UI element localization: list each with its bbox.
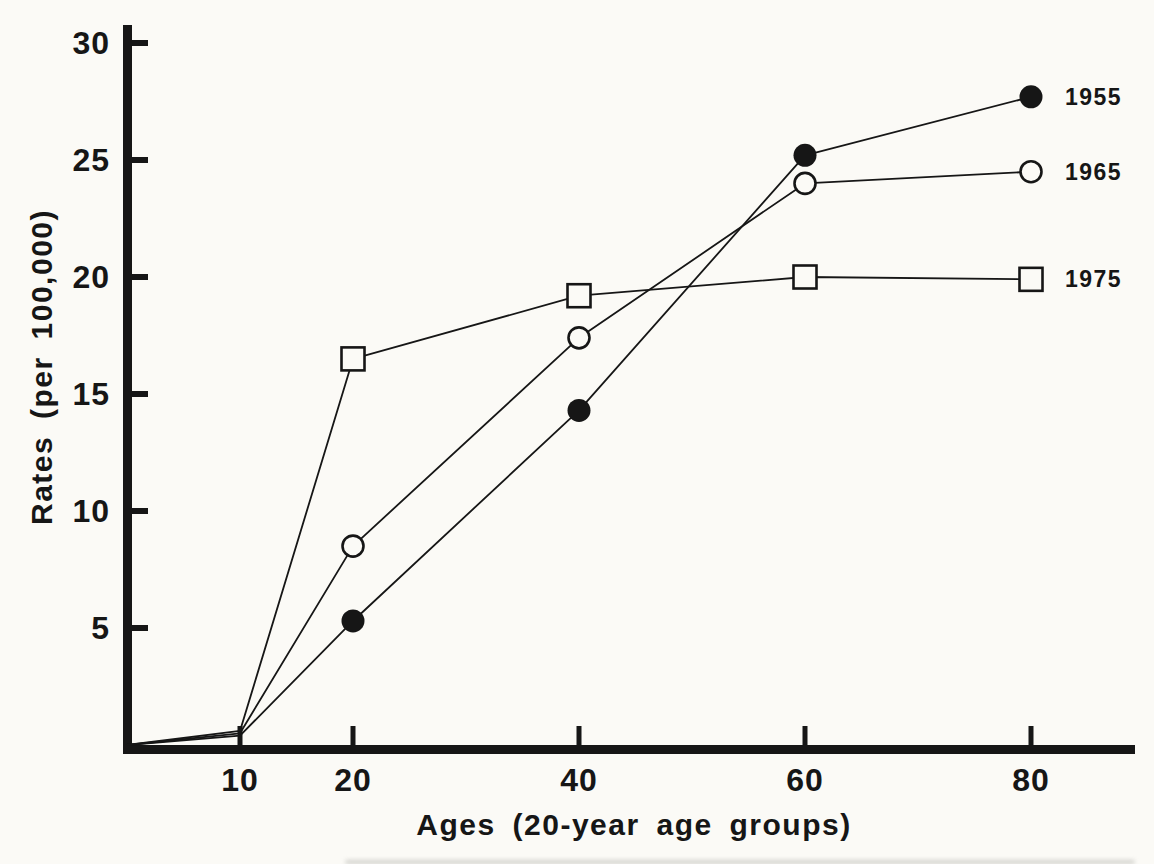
- y-axis-title: Rates (per 100,000): [25, 209, 58, 525]
- data-point-open-circle-1965: [569, 327, 590, 348]
- cropped-caption-remnant: [345, 860, 1135, 864]
- y-tick-label: 10: [72, 493, 110, 529]
- x-tick-label: 60: [786, 762, 824, 798]
- data-point-open-square-1975: [568, 284, 591, 307]
- y-axis-tick: [132, 40, 148, 46]
- y-axis-title-group: Rates (per 100,000): [25, 209, 58, 525]
- x-axis-title: Ages (20-year age groups): [416, 808, 851, 841]
- x-tick-label: 20: [334, 762, 372, 798]
- data-point-filled-circle-1955: [342, 609, 365, 632]
- data-point-filled-circle-1955: [568, 399, 591, 422]
- y-axis-tick: [132, 508, 148, 514]
- line-chart: 510152025301020406080195519651975Ages (2…: [0, 0, 1154, 864]
- statistical-figure: 510152025301020406080195519651975Ages (2…: [0, 0, 1154, 864]
- data-point-open-circle-1965: [1021, 161, 1042, 182]
- y-tick-label: 25: [72, 142, 110, 178]
- x-tick-label: 10: [221, 762, 259, 798]
- series-label-1965: 1965: [1065, 159, 1122, 185]
- y-axis-line: [123, 25, 132, 754]
- y-axis-tick: [132, 625, 148, 631]
- y-tick-label: 15: [72, 376, 110, 412]
- y-axis-tick: [132, 274, 148, 280]
- x-tick-label: 40: [560, 762, 598, 798]
- x-axis-tick: [577, 726, 582, 745]
- y-tick-label: 20: [72, 259, 110, 295]
- y-tick-label: 5: [91, 610, 110, 646]
- data-point-open-circle-1965: [795, 173, 816, 194]
- series-label-1975: 1975: [1065, 266, 1122, 292]
- x-axis-tick: [351, 726, 356, 745]
- x-axis-line: [123, 745, 1135, 754]
- y-axis-tick: [132, 157, 148, 163]
- x-axis-tick: [1029, 726, 1034, 745]
- y-tick-label: 30: [72, 25, 110, 61]
- data-point-filled-circle-1955: [1020, 85, 1043, 108]
- series-label-1955: 1955: [1065, 84, 1122, 110]
- data-point-open-square-1975: [342, 347, 365, 370]
- data-point-filled-circle-1955: [794, 144, 817, 167]
- x-axis-tick: [803, 726, 808, 745]
- x-tick-label: 80: [1012, 762, 1050, 798]
- data-point-open-square-1975: [794, 266, 817, 289]
- data-point-open-square-1975: [1020, 268, 1043, 291]
- y-axis-tick: [132, 391, 148, 397]
- data-point-open-circle-1965: [343, 536, 364, 557]
